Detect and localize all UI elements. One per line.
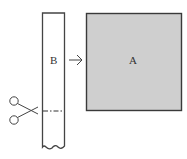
diagram-canvas: B A — [0, 0, 187, 159]
strip-label: B — [50, 54, 57, 66]
square-label: A — [129, 54, 137, 66]
square-a: A — [87, 14, 182, 111]
scissors-icon — [10, 97, 38, 124]
arrow-icon — [69, 55, 82, 65]
strip-b: B — [43, 13, 65, 149]
